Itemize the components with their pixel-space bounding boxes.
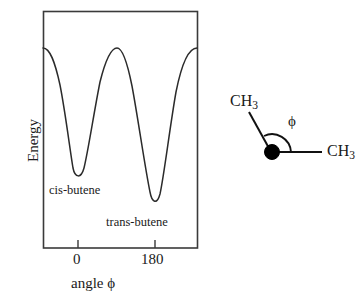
- energy-diagram-figure: Energy angle ϕ 0 180 cis-butene trans-bu…: [0, 0, 363, 306]
- dihedral-angle-symbol-label: ϕ: [288, 114, 296, 129]
- x-tick-label-0: 0: [73, 252, 81, 267]
- annotation-trans-butene: trans-butene: [106, 216, 168, 229]
- methyl-group-label-right: CH3: [327, 143, 355, 162]
- figure-canvas: [0, 0, 363, 306]
- energy-curve: [43, 48, 197, 201]
- x-axis-label: angle ϕ: [71, 276, 115, 291]
- methyl-group-label-upper-left: CH3: [230, 93, 258, 112]
- y-axis-label: Energy: [26, 119, 41, 162]
- bond-to-left-methyl: [249, 112, 270, 150]
- x-tick-label-180: 180: [141, 252, 164, 267]
- methyl-label-right-subscript: 3: [349, 149, 355, 161]
- methyl-label-right-text: CH: [327, 142, 349, 159]
- central-atom-dot: [265, 145, 280, 160]
- annotation-cis-butene: cis-butene: [49, 184, 100, 197]
- methyl-label-upper-text: CH: [230, 92, 252, 109]
- methyl-label-upper-subscript: 3: [252, 99, 258, 111]
